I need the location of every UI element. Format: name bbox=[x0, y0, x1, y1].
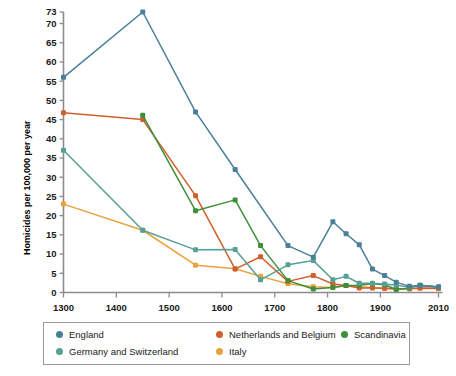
y-tick-label: 20 bbox=[46, 210, 57, 221]
data-point-marker bbox=[61, 110, 66, 115]
legend-label: England bbox=[69, 329, 104, 340]
series-germany-and-switzerland bbox=[61, 148, 441, 290]
data-point-marker bbox=[311, 287, 316, 292]
series-line bbox=[143, 115, 439, 289]
legend-color-swatch-icon bbox=[216, 348, 223, 355]
y-tick-label: 50 bbox=[46, 95, 57, 106]
x-tick-label: 1800 bbox=[317, 302, 338, 313]
y-tick-label: 60 bbox=[46, 56, 57, 67]
y-tick-label: 35 bbox=[46, 152, 57, 163]
data-point-marker bbox=[344, 274, 349, 279]
data-point-marker bbox=[285, 278, 290, 283]
legend-label: Scandinavia bbox=[354, 329, 406, 340]
data-point-marker bbox=[193, 193, 198, 198]
plot-area: 051015202530354045505560657073 130014001… bbox=[0, 0, 456, 376]
y-tick-label: 40 bbox=[46, 133, 57, 144]
x-tick-label: 1900 bbox=[370, 302, 391, 313]
data-point-marker bbox=[344, 231, 349, 236]
legend-color-swatch-icon bbox=[341, 331, 348, 338]
data-point-marker bbox=[370, 267, 375, 272]
y-tick-label: 10 bbox=[46, 248, 57, 259]
y-tick-label: 25 bbox=[46, 191, 57, 202]
data-point-marker bbox=[407, 284, 412, 289]
legend-color-swatch-icon bbox=[56, 331, 63, 338]
series-line bbox=[64, 113, 439, 289]
data-point-marker bbox=[394, 280, 399, 285]
data-point-marker bbox=[258, 277, 263, 282]
legend-item-netherlands-and-belgium[interactable]: Netherlands and Belgium bbox=[216, 329, 336, 340]
data-point-marker bbox=[258, 243, 263, 248]
x-tick-label: 1300 bbox=[53, 302, 74, 313]
legend-item-england[interactable]: England bbox=[56, 329, 104, 340]
data-point-marker bbox=[233, 197, 238, 202]
x-axis-ticks: 13001400150016001700180019002010 bbox=[53, 293, 449, 313]
y-tick-label: 15 bbox=[46, 229, 57, 240]
y-axis-ticks: 051015202530354045505560657073 bbox=[46, 6, 64, 298]
data-point-marker bbox=[382, 273, 387, 278]
x-tick-label: 1700 bbox=[264, 302, 285, 313]
legend-color-swatch-icon bbox=[216, 331, 223, 338]
legend-item-germany-and-switzerland[interactable]: Germany and Switzerland bbox=[56, 346, 178, 357]
data-point-marker bbox=[285, 262, 290, 267]
y-tick-label: 73 bbox=[46, 6, 57, 17]
data-point-marker bbox=[311, 255, 316, 260]
data-point-marker bbox=[193, 263, 198, 268]
data-point-marker bbox=[140, 113, 145, 118]
data-point-marker bbox=[357, 281, 362, 286]
legend-label: Italy bbox=[229, 346, 246, 357]
data-point-marker bbox=[233, 267, 238, 272]
data-point-marker bbox=[418, 283, 423, 288]
data-point-marker bbox=[382, 282, 387, 287]
x-tick-label: 1500 bbox=[159, 302, 180, 313]
series-netherlands-and-belgium bbox=[61, 110, 441, 291]
y-axis-title: Homicides per 100,000 per year bbox=[22, 120, 32, 255]
legend-item-scandinavia[interactable]: Scandinavia bbox=[341, 329, 406, 340]
series-england bbox=[61, 10, 441, 290]
data-point-marker bbox=[193, 208, 198, 213]
data-point-marker bbox=[193, 109, 198, 114]
data-point-marker bbox=[311, 273, 316, 278]
y-tick-label: 55 bbox=[46, 76, 57, 87]
y-tick-label: 65 bbox=[46, 37, 57, 48]
legend-label: Netherlands and Belgium bbox=[229, 329, 336, 340]
legend-color-swatch-icon bbox=[56, 348, 63, 355]
series-line bbox=[64, 150, 439, 287]
data-point-marker bbox=[61, 148, 66, 153]
y-tick-label: 0 bbox=[51, 287, 56, 298]
legend-label: Germany and Switzerland bbox=[69, 346, 178, 357]
y-tick-label: 5 bbox=[51, 268, 57, 279]
y-tick-label: 45 bbox=[46, 114, 57, 125]
x-tick-label: 1400 bbox=[106, 302, 127, 313]
data-point-marker bbox=[140, 10, 145, 15]
data-point-marker bbox=[193, 247, 198, 252]
y-tick-label: 30 bbox=[46, 172, 57, 183]
data-point-marker bbox=[233, 167, 238, 172]
series-line bbox=[64, 12, 439, 287]
data-point-marker bbox=[436, 285, 441, 290]
data-point-marker bbox=[344, 283, 349, 288]
data-point-marker bbox=[357, 242, 362, 247]
y-tick-label: 70 bbox=[46, 18, 57, 29]
data-point-marker bbox=[61, 75, 66, 80]
data-point-marker bbox=[330, 219, 335, 224]
data-point-marker bbox=[370, 281, 375, 286]
x-tick-label: 2010 bbox=[428, 302, 449, 313]
chart-legend: EnglandNetherlands and BelgiumScandinavi… bbox=[43, 322, 410, 365]
data-point-marker bbox=[233, 247, 238, 252]
data-point-marker bbox=[258, 254, 263, 259]
legend-item-italy[interactable]: Italy bbox=[216, 346, 246, 357]
data-point-marker bbox=[140, 228, 145, 233]
data-point-marker bbox=[330, 277, 335, 282]
x-tick-label: 1600 bbox=[211, 302, 232, 313]
data-point-marker bbox=[330, 285, 335, 290]
data-point-marker bbox=[285, 243, 290, 248]
homicide-rate-line-chart: Homicides per 100,000 per year 051015202… bbox=[0, 0, 456, 376]
data-series-group bbox=[61, 10, 441, 292]
data-point-marker bbox=[61, 202, 66, 207]
